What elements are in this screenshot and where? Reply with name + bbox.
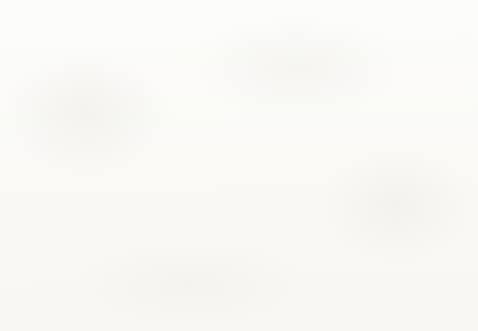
legend-item[interactable]: Concentration measured in 2016 [180,290,346,301]
legend-item[interactable]: Optimal values for Corn cultivation [87,271,261,282]
gridline [73,241,451,242]
bar-group[interactable] [286,23,332,241]
bar-segment [192,40,238,241]
legend-row-primary: Optimal values for Corn cultivationConce… [73,267,453,286]
legend-row-secondary: Concentration measured in 2016 [73,286,453,305]
bar-segment [286,54,332,241]
chart-frame: 100%90%80%70%60%50%40%30%20%10%0% Optima… [12,8,463,308]
stacked-bar[interactable] [192,27,238,241]
bar-group[interactable] [97,23,143,241]
bar-segment [286,30,332,54]
bars-layer [73,23,451,241]
stacked-bar[interactable] [286,30,332,241]
legend-item[interactable]: Concentration measured in 2013 [273,271,439,282]
chart-legend: Optimal values for Corn cultivationConce… [73,267,453,305]
legend-swatch-icon [273,273,280,280]
legend-swatch-icon [180,292,187,299]
bar-group[interactable] [192,23,238,241]
bar-segment [381,30,427,71]
stacked-bar[interactable] [381,30,427,241]
bar-segment [381,71,427,241]
legend-label: Concentration measured in 2013 [284,271,439,282]
bar-segment [192,27,238,40]
bar-group[interactable] [381,23,427,241]
legend-label: Concentration measured in 2016 [191,290,346,301]
legend-label: Optimal values for Corn cultivation [98,271,261,282]
bar-segment [97,32,143,241]
legend-swatch-icon [87,273,94,280]
stacked-bar[interactable] [97,25,143,241]
